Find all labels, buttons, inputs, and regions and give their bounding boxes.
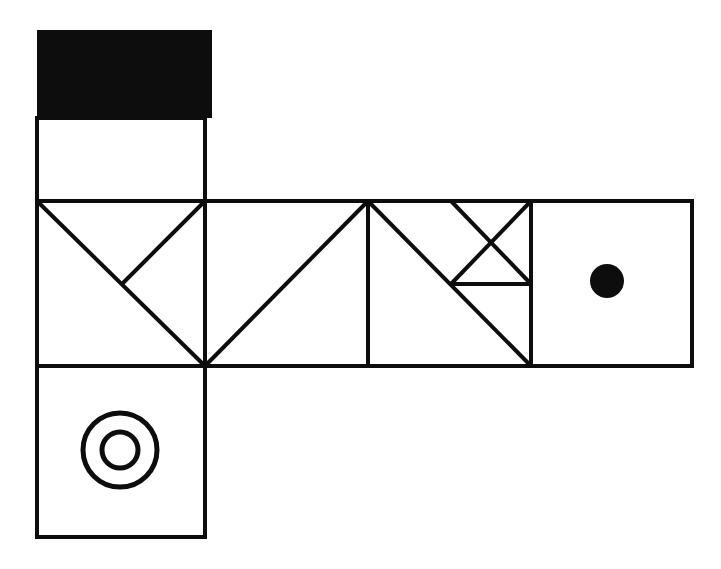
cube-net-figure bbox=[0, 0, 721, 569]
filled-dot-icon bbox=[590, 264, 624, 298]
figure-root bbox=[0, 0, 721, 569]
top-black-band bbox=[37, 30, 212, 118]
middle-cell-4-markings bbox=[590, 264, 624, 298]
